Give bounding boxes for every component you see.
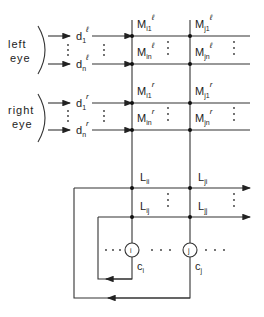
svg-text:Minℓ: Minℓ bbox=[137, 41, 155, 60]
left-eye-label: left bbox=[8, 38, 27, 50]
input-labels: d1ℓ dnℓ d1r dnr bbox=[76, 25, 89, 138]
binocular-network-diagram: left eye right eye d1ℓ dnℓ d1r dnr Mi1ℓ … bbox=[0, 0, 264, 317]
svg-text:d1r: d1r bbox=[76, 92, 89, 111]
svg-text:Mi1r: Mi1r bbox=[137, 80, 155, 99]
left-eye-bracket bbox=[38, 26, 45, 74]
ellipsis-dots bbox=[67, 41, 235, 251]
cell-i-label: i bbox=[130, 247, 132, 254]
svg-text:Mi1ℓ: Mi1ℓ bbox=[137, 13, 155, 32]
svg-text:Ljj: Ljj bbox=[198, 200, 208, 215]
svg-text:Mj1r: Mj1r bbox=[195, 80, 213, 100]
svg-text:Minr: Minr bbox=[137, 107, 155, 126]
svg-text:Mjnr: Mjnr bbox=[195, 107, 213, 127]
svg-text:Mjnℓ: Mjnℓ bbox=[195, 41, 213, 61]
output-ci: ci bbox=[137, 260, 145, 274]
svg-text:eye: eye bbox=[10, 52, 31, 64]
svg-text:Lji: Lji bbox=[198, 171, 208, 186]
svg-text:eye: eye bbox=[12, 118, 33, 130]
svg-text:Lij: Lij bbox=[140, 200, 150, 215]
cell-j-label: j bbox=[187, 247, 190, 255]
svg-text:Mj1ℓ: Mj1ℓ bbox=[195, 13, 213, 33]
right-eye-bracket bbox=[38, 94, 45, 142]
right-eye-label: right bbox=[8, 104, 34, 116]
svg-text:dnr: dnr bbox=[76, 119, 89, 138]
svg-text:d1ℓ: d1ℓ bbox=[76, 25, 89, 44]
svg-text:dnℓ: dnℓ bbox=[76, 53, 89, 72]
lateral-labels: Lii Lji Lij Ljj bbox=[140, 171, 208, 215]
output-cj: cj bbox=[195, 260, 203, 275]
weight-labels: Mi1ℓ Mj1ℓ Minℓ Mjnℓ Mi1r Mj1r Minr Mjnr bbox=[137, 13, 213, 127]
svg-text:Lii: Lii bbox=[140, 171, 150, 185]
